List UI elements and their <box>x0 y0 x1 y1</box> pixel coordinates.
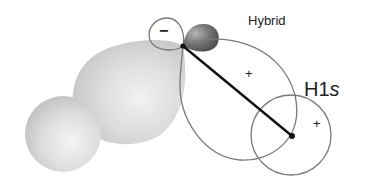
electron-cloud-small <box>25 96 101 172</box>
h1s-label-prefix: H1 <box>304 78 330 100</box>
dark-minor-lobe <box>183 24 219 52</box>
h1s-label: H1s <box>304 78 340 101</box>
nucleus-carbon <box>180 43 185 48</box>
h1s-label-suffix: s <box>330 78 340 100</box>
hybrid-label: Hybrid <box>248 13 286 28</box>
minus-sign: − <box>159 22 168 40</box>
nucleus-hydrogen <box>289 133 295 139</box>
plus-sign-h1s: + <box>313 116 321 131</box>
plus-sign-hybrid: + <box>245 66 253 81</box>
bond-line <box>180 43 295 139</box>
